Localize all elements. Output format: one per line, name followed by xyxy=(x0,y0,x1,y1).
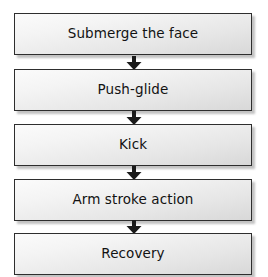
flowchart-step: Push-glide xyxy=(14,69,252,111)
flowchart-step: Recovery xyxy=(14,233,252,275)
arrow-down-icon xyxy=(125,220,143,234)
flowchart-step: Kick xyxy=(14,124,252,166)
step-label-1: Submerge the face xyxy=(68,27,199,41)
step-box-2: Push-glide xyxy=(14,69,252,111)
arrow-down-icon xyxy=(125,111,143,125)
step-box-4: Arm stroke action xyxy=(14,179,252,221)
step-label-3: Kick xyxy=(119,138,147,152)
step-box-5: Recovery xyxy=(14,233,252,275)
step-box-1: Submerge the face xyxy=(14,13,252,55)
arrow-down-icon xyxy=(125,56,143,70)
flowchart-diagram: Submerge the face Push-glide Kick xyxy=(0,0,268,277)
flowchart-step: Submerge the face xyxy=(14,13,252,55)
flowchart-step: Arm stroke action xyxy=(14,179,252,221)
arrow-down-icon xyxy=(125,166,143,180)
step-box-3: Kick xyxy=(14,124,252,166)
step-label-2: Push-glide xyxy=(98,83,169,97)
step-label-5: Recovery xyxy=(101,247,164,261)
step-label-4: Arm stroke action xyxy=(72,193,193,207)
